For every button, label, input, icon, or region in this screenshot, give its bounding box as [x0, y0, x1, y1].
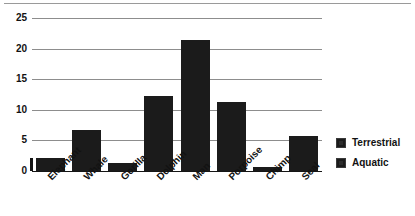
legend-label-terrestrial: Terrestrial	[352, 138, 400, 148]
legend-item-aquatic: Aquatic	[336, 153, 412, 173]
legend-swatch-terrestrial-icon	[336, 138, 346, 148]
y-axis-tick-label: 15	[16, 74, 27, 84]
bar-chart-figure: 0510152025 ElephantWhaleGorillaDolphinMa…	[0, 0, 415, 216]
chart-legend: Terrestrial Aquatic	[336, 133, 412, 173]
y-axis-tick-label: 20	[16, 44, 27, 54]
y-axis-tick-label: 5	[21, 135, 27, 145]
legend-swatch-aquatic-icon	[336, 158, 346, 168]
legend-label-aquatic: Aquatic	[352, 158, 389, 168]
y-axis-tick-label: 25	[16, 13, 27, 23]
legend-item-terrestrial: Terrestrial	[336, 133, 412, 153]
y-axis-tick-label: 10	[16, 105, 27, 115]
y-axis-tick-label: 0	[21, 166, 27, 176]
x-axis-labels: ElephantWhaleGorillaDolphinManPorpoiseCh…	[32, 171, 322, 216]
figure-top-border	[4, 3, 411, 4]
